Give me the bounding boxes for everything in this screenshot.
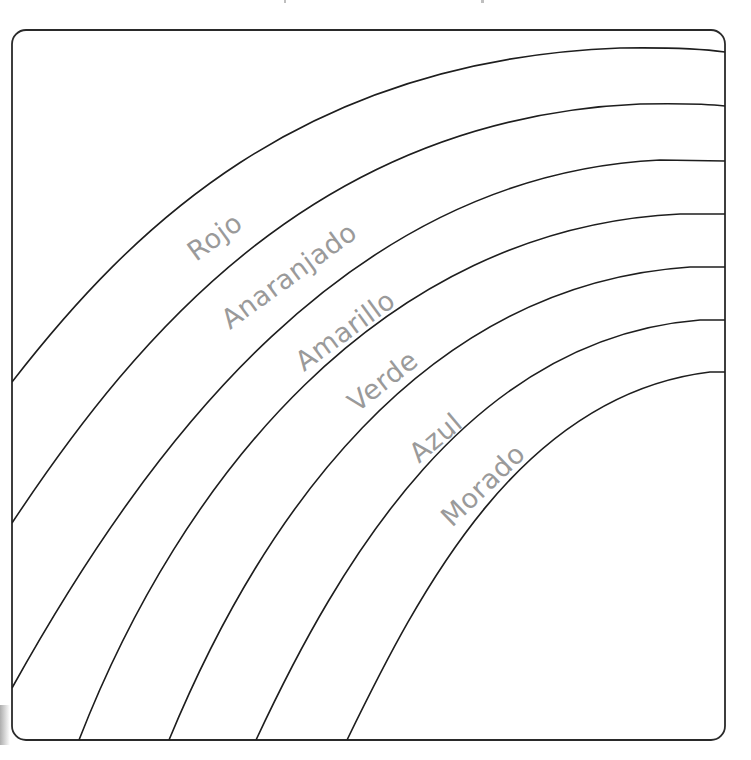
rainbow-worksheet: Rojo Anaranjado Amarillo Verde Azul Mora… xyxy=(0,0,751,760)
cropped-title-remnant xyxy=(481,0,484,3)
cropped-title-remnant xyxy=(284,0,286,3)
